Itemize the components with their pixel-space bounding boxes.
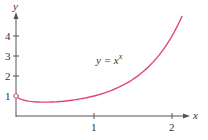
y-tick-label-4: 4: [5, 30, 11, 42]
y-tick-label-3: 3: [5, 50, 11, 62]
y-axis-arrow-icon: [14, 12, 19, 19]
y-axis-label: y: [12, 0, 18, 12]
y-tick-label-2: 2: [5, 70, 11, 82]
x-axis-arrow-icon: [183, 114, 190, 119]
chart: y x 1 2 3 4 1 2 y = xx: [0, 0, 208, 140]
x-tick-label-1: 1: [91, 121, 97, 133]
equation-label: y = xx: [95, 52, 123, 66]
x-axis-label: x: [192, 109, 198, 121]
y-tick-label-1: 1: [5, 90, 11, 102]
x-tick-label-2: 2: [169, 121, 175, 133]
open-point-marker: [14, 94, 18, 98]
